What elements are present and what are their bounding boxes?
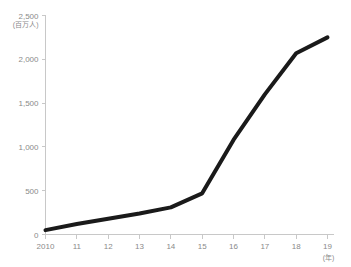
data-series-line — [46, 37, 328, 230]
x-tick-label: 2010 — [37, 242, 55, 251]
y-tick-label: 1,000 — [18, 143, 39, 152]
x-tick-label: 19 — [323, 242, 332, 251]
y-tick-label: 1,500 — [18, 99, 39, 108]
x-axis-unit-label: (年) — [323, 253, 335, 262]
x-tick-label: 14 — [166, 242, 175, 251]
x-tick-label: 13 — [135, 242, 144, 251]
chart-canvas: 05001,0001,5002,0002,500(百万人)20101112131… — [0, 0, 351, 267]
x-tick-label: 17 — [260, 242, 269, 251]
y-tick-label: 2,500 — [18, 12, 39, 21]
y-axis-unit-label: (百万人) — [13, 21, 39, 29]
y-tick-label: 0 — [34, 231, 39, 240]
line-chart: 05001,0001,5002,0002,500(百万人)20101112131… — [0, 0, 351, 267]
x-tick-label: 15 — [198, 242, 207, 251]
x-tick-label: 16 — [229, 242, 238, 251]
y-tick-label: 2,000 — [18, 55, 39, 64]
x-tick-label: 18 — [292, 242, 301, 251]
x-tick-label: 12 — [104, 242, 113, 251]
x-tick-label: 11 — [73, 242, 82, 251]
y-tick-label: 500 — [25, 187, 39, 196]
